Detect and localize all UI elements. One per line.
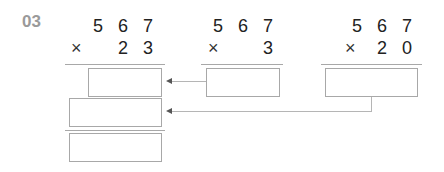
underline-rule (65, 64, 165, 65)
multiply-sign: × (345, 38, 356, 59)
answer-box-final-567x23[interactable] (69, 133, 162, 162)
answer-box-partial-567x3[interactable] (88, 68, 162, 97)
multiplicand: 5 6 7 (93, 16, 158, 37)
underline-rule (321, 64, 422, 65)
multiplier: 2 0 (377, 38, 417, 59)
multiplicand: 5 6 7 (213, 16, 278, 37)
answer-box-result-567x20[interactable] (325, 68, 418, 97)
answer-box-result-567x3[interactable] (206, 68, 280, 97)
multiply-sign: × (71, 38, 82, 59)
connector-line-vertical (371, 97, 372, 112)
arrow-left-icon (166, 78, 172, 84)
underline-rule (201, 64, 283, 65)
arrow-left-icon (166, 108, 172, 114)
multiplicand: 5 6 7 (352, 16, 417, 37)
multiplier: 3 (263, 38, 278, 59)
multiply-sign: × (208, 38, 219, 59)
sum-rule (65, 130, 165, 131)
problem-number-label: 03 (22, 12, 41, 32)
connector-line (172, 81, 206, 82)
answer-box-partial-567x20[interactable] (69, 98, 162, 127)
multiplier: 2 3 (118, 38, 158, 59)
connector-line-horizontal (172, 111, 372, 112)
